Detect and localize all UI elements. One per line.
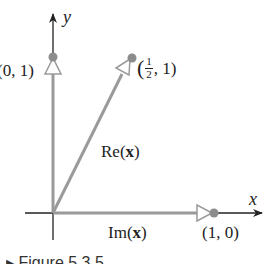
fraction-numerator: 1 [145,56,153,69]
re-text: Re( [101,142,126,161]
im-text: Im( [108,223,133,242]
y-axis-label: y [63,8,71,26]
vector-label-re-x: Re(x) [101,143,140,160]
point-0-1 [49,53,58,62]
fraction: 12 [145,56,153,80]
re-var: x [126,142,135,161]
vector-label-im-x: Im(x) [108,224,147,241]
re-close: ) [134,142,140,161]
point-label-half-1: (12, 1) [137,56,177,80]
fraction-denominator: 2 [145,69,153,81]
point-1-0 [210,209,219,218]
point-label-rest: , 1) [154,59,177,78]
point-label-0-1: (0, 1) [0,62,34,79]
x-axis-label: x [249,190,257,208]
point-half-1 [128,54,137,63]
im-close: ) [141,223,147,242]
point-label-1-0: (1, 0) [202,224,239,241]
open-paren: ( [137,55,144,80]
open-arrowhead-icon [116,59,130,75]
im-var: x [133,223,142,242]
figure-caption: ▸ Figure 5.3.5 [6,253,104,264]
